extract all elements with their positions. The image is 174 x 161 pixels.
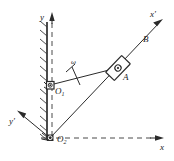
omega-label: ω [71,58,76,66]
x-axis-arrowhead [155,135,164,140]
x-axis: x [56,135,164,152]
fixed-wall [40,21,47,140]
wall-hatching [40,21,47,140]
y-prime-axis-label: y' [8,116,16,126]
point-O1-subscript: 1 [62,91,65,97]
O1-pin-center [49,84,51,86]
y-prime-line [21,114,50,138]
x-prime-arrowhead [153,19,163,26]
pin-support-O2: O 2 [41,133,67,145]
mechanism-diagram: y x x' B y' ω [0,0,174,161]
omega-marker: ω [66,58,80,85]
y-axis-arrowhead [49,12,54,21]
x-prime-axis-label: x' [149,9,157,19]
point-O2-subscript: 2 [64,139,67,145]
x-axis-label: x [159,142,164,152]
omega-tick-line [72,67,80,85]
y-axis-label: y [39,12,44,22]
point-B-label: B [143,34,149,44]
diagram-canvas: y x x' B y' ω [0,0,174,161]
point-A-label: A [122,72,129,82]
